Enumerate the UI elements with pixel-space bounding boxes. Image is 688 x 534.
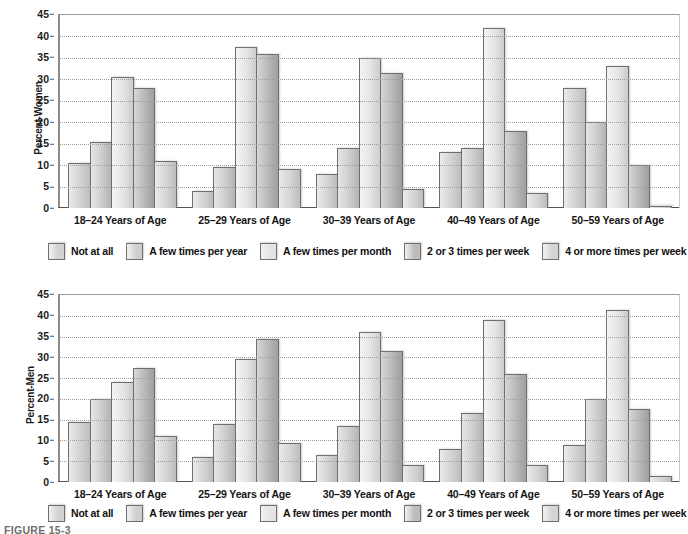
bar [563, 445, 586, 482]
y-axis-ticks-women: 051015202530354045 [28, 14, 52, 208]
y-tick-mark [50, 122, 54, 123]
y-tick-mark [50, 440, 54, 441]
bar [359, 58, 382, 208]
y-tick-label: 0 [43, 203, 49, 214]
bar [133, 368, 156, 482]
bar [337, 426, 360, 482]
bar [461, 413, 484, 482]
legend-swatch-icon [542, 243, 559, 260]
bar [337, 148, 360, 208]
bar [68, 163, 91, 208]
legend-item[interactable]: Not at all [48, 505, 113, 522]
bar [316, 455, 339, 482]
legend-item-label: A few times per month [283, 507, 391, 519]
gridline [60, 337, 679, 338]
bar [213, 424, 236, 482]
x-axis-labels-women: 18–24 Years of Age25–29 Years of Age30–3… [58, 210, 680, 230]
bar [606, 310, 629, 482]
legend-swatch-icon [126, 243, 143, 260]
figure-caption: FIGURE 15-3 [4, 524, 71, 534]
bar-group [316, 15, 424, 208]
legend-swatch-icon [48, 505, 65, 522]
plot-area-men [58, 294, 680, 482]
bar [154, 161, 177, 208]
x-axis-category-label: 40–49 Years of Age [439, 210, 547, 230]
plot-wrapper-men: 051015202530354045 18–24 Years of Age25–… [28, 286, 684, 504]
y-tick-label: 25 [37, 372, 49, 383]
y-tick-mark [50, 378, 54, 379]
bar-group [439, 15, 547, 208]
legend-item-label: 2 or 3 times per week [427, 245, 529, 257]
legend-item-label: 4 or more times per week [565, 245, 686, 257]
bar [439, 449, 462, 482]
bar [192, 191, 215, 208]
bar [359, 332, 382, 482]
bar [649, 476, 672, 482]
legend-swatch-icon [260, 505, 277, 522]
legend-swatch-icon [404, 243, 421, 260]
y-tick-mark [50, 100, 54, 101]
bar [256, 54, 279, 208]
bar-group [68, 15, 176, 208]
y-tick-label: 35 [37, 52, 49, 63]
x-axis-category-label: 18–24 Years of Age [66, 210, 174, 230]
legend-item[interactable]: A few times per month [260, 243, 391, 260]
y-tick-label: 0 [43, 477, 49, 488]
bar-group [68, 295, 176, 482]
y-tick-mark [50, 398, 54, 399]
legend-item-label: 4 or more times per week [565, 507, 686, 519]
bar [90, 142, 113, 208]
bar [380, 73, 403, 208]
bar [563, 88, 586, 208]
y-tick-mark [50, 79, 54, 80]
legend-item[interactable]: A few times per year [126, 505, 247, 522]
legend-item-label: A few times per year [149, 245, 247, 257]
bar-group [316, 295, 424, 482]
bar [133, 88, 156, 208]
y-tick-label: 30 [37, 351, 49, 362]
legend-item[interactable]: 2 or 3 times per week [404, 243, 529, 260]
bar [504, 374, 527, 482]
y-tick-label: 30 [37, 73, 49, 84]
gridline [60, 378, 679, 379]
gridline [60, 420, 679, 421]
bar-group [563, 295, 671, 482]
bar [380, 351, 403, 482]
legend-item[interactable]: 4 or more times per week [542, 243, 686, 260]
legend-item[interactable]: 4 or more times per week [542, 505, 686, 522]
x-axis-category-label: 50–59 Years of Age [564, 210, 672, 230]
gridline [60, 79, 679, 80]
bar [439, 152, 462, 208]
plot-area-women [58, 14, 680, 208]
gridline [60, 58, 679, 59]
bar [68, 422, 91, 482]
y-tick-label: 20 [37, 393, 49, 404]
legend-item-label: Not at all [71, 245, 113, 257]
legend-item[interactable]: 2 or 3 times per week [404, 505, 529, 522]
legend-item[interactable]: A few times per month [260, 505, 391, 522]
bar [111, 382, 134, 482]
legend-item[interactable]: A few times per year [126, 243, 247, 260]
legend-women: Not at allA few times per yearA few time… [0, 236, 688, 266]
legend-swatch-icon [126, 505, 143, 522]
bar-group [192, 15, 300, 208]
y-tick-label: 10 [37, 160, 49, 171]
bar [504, 131, 527, 208]
bar [483, 28, 506, 208]
legend-item[interactable]: Not at all [48, 243, 113, 260]
chart-panel-women: Percent-Women 051015202530354045 18–24 Y… [0, 6, 688, 230]
y-tick-mark [50, 336, 54, 337]
bar-group [563, 15, 671, 208]
y-tick-label: 45 [37, 9, 49, 20]
legend-swatch-icon [542, 505, 559, 522]
bar [278, 169, 301, 208]
bar [461, 148, 484, 208]
y-tick-label: 25 [37, 95, 49, 106]
bar [235, 47, 258, 208]
bar [402, 189, 425, 208]
bar-group [192, 295, 300, 482]
y-tick-label: 15 [37, 414, 49, 425]
gridline [60, 399, 679, 400]
y-tick-label: 40 [37, 310, 49, 321]
y-tick-mark [50, 315, 54, 316]
